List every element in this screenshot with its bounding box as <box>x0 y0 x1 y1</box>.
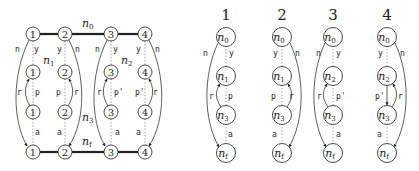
diagram-canvas: 1 2 3 4 1 2 3 4 1 2 3 4 1 2 3 4 n0 n1 n2… <box>0 0 419 171</box>
edge-label-a: a <box>272 130 277 139</box>
tree-2: 2 n0 n1 n3 nf y n p r a <box>271 6 301 163</box>
edge-label-r: r <box>97 88 102 97</box>
edge-label-p-prime: p' <box>375 92 385 101</box>
tree-header: 3 <box>328 6 338 24</box>
group-label-n2: n2 <box>121 54 133 68</box>
node-bottom-2: 2 <box>62 147 68 158</box>
edge-label-r: r <box>289 92 294 101</box>
node-mid2-4: 4 <box>142 107 148 118</box>
edge-label-y: y <box>378 49 383 58</box>
edge-label-a: a <box>228 130 233 139</box>
node-mid2-3: 3 <box>108 107 114 118</box>
edge-label-n: n <box>15 45 20 54</box>
group-label-n1: n1 <box>43 54 55 68</box>
edge-label-y: y <box>229 49 234 58</box>
tree-header: 1 <box>221 6 231 24</box>
edge-label-a: a <box>136 128 141 137</box>
edge-label-r: r <box>74 88 79 97</box>
tree-1: 1 n0 n1 n3 nf n y r p a <box>203 6 236 163</box>
node-mid1-4: 4 <box>142 67 148 78</box>
tree-3: 3 n0 n2 n3 nf n y r p' a <box>314 6 346 163</box>
edge-label-y: y <box>336 49 341 58</box>
edge-label-p: p <box>35 88 40 97</box>
tree-header: 4 <box>382 6 392 24</box>
edge-label-y: y <box>57 45 62 54</box>
edge-label-y: y <box>34 45 39 54</box>
edge-label-y: y <box>273 49 278 58</box>
edge-label-p-prime: p' <box>135 88 145 97</box>
node-top-3: 3 <box>108 29 114 40</box>
edge-label-r: r <box>209 92 214 101</box>
node-mid1-3: 3 <box>108 67 114 78</box>
node-mid2-2: 2 <box>62 107 68 118</box>
edge-label-n: n <box>316 49 321 58</box>
edge-label-r: r <box>317 92 322 101</box>
node-mid1-1: 1 <box>30 67 36 78</box>
edge-label-p-prime: p' <box>114 88 124 97</box>
edge-label-y: y <box>113 45 118 54</box>
node-top-4: 4 <box>142 29 148 40</box>
edge-label-r: r <box>17 88 22 97</box>
edge-label-n: n <box>203 49 208 58</box>
group-label-n0: n0 <box>82 17 94 31</box>
edge-label-n: n <box>295 49 300 58</box>
edge-label-a: a <box>377 130 382 139</box>
node-mid2-1: 1 <box>30 107 36 118</box>
node-mid1-2: 2 <box>62 67 68 78</box>
edge-label-p: p <box>271 92 276 101</box>
node-top-2: 2 <box>62 29 68 40</box>
mid-row-1-nodes: 1 2 3 4 <box>26 65 152 79</box>
node-top-1: 1 <box>30 29 36 40</box>
node-bottom-1: 1 <box>30 147 36 158</box>
edge-label-n: n <box>400 49 405 58</box>
edge-label-r: r <box>398 92 403 101</box>
node-bottom-4: 4 <box>142 147 148 158</box>
left-product-diagram: 1 2 3 4 1 2 3 4 1 2 3 4 1 2 3 4 n0 n1 n2… <box>15 17 162 159</box>
tree-header: 2 <box>277 6 287 24</box>
edge-label-n: n <box>155 45 160 54</box>
edge-label-a: a <box>336 130 341 139</box>
group-label-n3: n3 <box>82 111 94 125</box>
node-bottom-3: 3 <box>108 147 114 158</box>
edge-label-a: a <box>115 128 120 137</box>
edge-label-y: y <box>136 45 141 54</box>
edge-label-n: n <box>75 45 80 54</box>
edge-label-p: p <box>228 92 233 101</box>
tree-4: 4 n0 n2 n3 nf y n p' r a <box>375 6 406 163</box>
edge-label-a: a <box>57 128 62 137</box>
edge-label-a: a <box>35 128 40 137</box>
edge-label-r: r <box>153 88 158 97</box>
edge-label-p: p <box>56 88 61 97</box>
edge-label-p-prime: p' <box>336 92 346 101</box>
group-label-nf: nf <box>82 135 93 149</box>
edge-label-n: n <box>95 45 100 54</box>
